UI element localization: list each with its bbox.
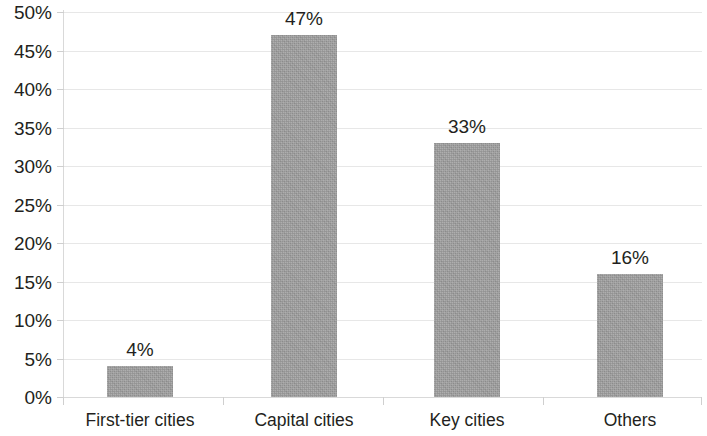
gridline <box>63 166 702 167</box>
gridline <box>63 51 702 52</box>
x-axis-tick <box>63 397 64 405</box>
y-axis-tick <box>57 205 64 206</box>
y-axis-label: 20% <box>0 234 52 253</box>
gridline <box>63 205 702 206</box>
gridline <box>63 128 702 129</box>
bar-capital-cities[interactable] <box>271 35 337 397</box>
bar-chart: 50% 45% 40% 35% 30% 25% 20% 15% 10% 5% 0… <box>0 0 707 436</box>
y-axis-tick <box>57 359 64 360</box>
x-axis-tick <box>223 397 224 405</box>
x-axis-category-key-cities: Key cities <box>379 409 555 431</box>
y-axis-label: 0% <box>0 388 52 407</box>
bar-first-tier-cities[interactable] <box>107 366 173 397</box>
y-axis-label: 50% <box>0 3 52 22</box>
y-axis-tick <box>57 166 64 167</box>
y-axis-tick <box>57 89 64 90</box>
x-axis-tick <box>701 397 702 405</box>
y-axis-label: 35% <box>0 119 52 138</box>
gridline <box>63 243 702 244</box>
data-label-capital-cities: 47% <box>244 9 364 28</box>
data-label-key-cities: 33% <box>407 117 527 136</box>
x-axis-category-capital-cities: Capital cities <box>216 409 392 431</box>
x-axis-category-others: Others <box>542 409 707 431</box>
data-label-others: 16% <box>570 248 690 267</box>
y-axis-label: 10% <box>0 311 52 330</box>
gridline <box>63 89 702 90</box>
x-axis-tick <box>543 397 544 405</box>
gridline <box>63 12 702 13</box>
x-axis-category-first-tier-cities: First-tier cities <box>52 409 228 431</box>
y-axis-tick <box>57 128 64 129</box>
bar-others[interactable] <box>597 274 663 397</box>
y-axis-label: 25% <box>0 196 52 215</box>
y-axis-tick <box>57 282 64 283</box>
bar-key-cities[interactable] <box>434 143 500 397</box>
y-axis-label: 5% <box>0 350 52 369</box>
y-axis-label: 15% <box>0 273 52 292</box>
y-axis-label: 30% <box>0 157 52 176</box>
y-axis-label: 45% <box>0 42 52 61</box>
data-label-first-tier-cities: 4% <box>80 340 200 359</box>
y-axis-tick <box>57 51 64 52</box>
y-axis-tick <box>57 243 64 244</box>
x-axis-tick <box>383 397 384 405</box>
y-axis-tick <box>57 12 64 13</box>
y-axis-tick <box>57 320 64 321</box>
y-axis-label: 40% <box>0 80 52 99</box>
